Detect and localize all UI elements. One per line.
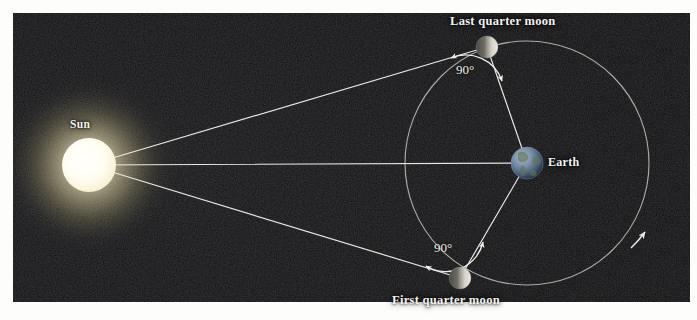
moon-quarter-phases-diagram: Sun Earth Last quarter moon First quarte… xyxy=(0,0,697,320)
first-quarter-moon-body xyxy=(449,267,471,289)
sun-body xyxy=(62,138,116,192)
earth-body xyxy=(511,147,543,179)
diagram-canvas xyxy=(0,0,697,320)
last-quarter-moon-body xyxy=(476,36,498,58)
